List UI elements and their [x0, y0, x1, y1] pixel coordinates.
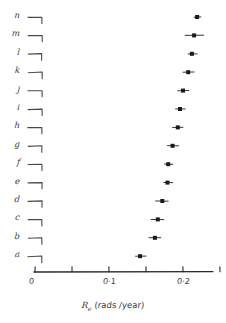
marker	[166, 162, 170, 166]
chart-background	[0, 0, 226, 323]
dot-plot-chart	[0, 0, 226, 323]
marker	[160, 199, 164, 203]
marker	[181, 89, 185, 93]
category-label-b: b	[2, 232, 21, 241]
marker	[186, 70, 190, 74]
category-label-d: d	[2, 195, 21, 204]
x-axis-title: Re (rads /year)	[0, 300, 226, 312]
category-label-e: e	[2, 177, 21, 186]
x-axis-title-units: (rads /year)	[94, 300, 145, 310]
category-label-k: k	[2, 66, 21, 75]
marker	[171, 144, 175, 148]
category-label-i: i	[2, 103, 21, 112]
category-label-m: m	[2, 29, 21, 38]
category-label-g: g	[2, 140, 21, 149]
marker	[138, 254, 142, 258]
category-label-f: f	[2, 158, 21, 167]
x-tick-label-2: 0·1	[103, 277, 117, 286]
category-label-n: n	[2, 11, 21, 20]
marker	[156, 217, 160, 221]
marker	[190, 52, 194, 56]
marker	[166, 181, 170, 185]
x-tick-label-4: 0·2	[177, 277, 191, 286]
marker	[178, 107, 182, 111]
category-label-a: a	[2, 250, 21, 259]
marker	[176, 125, 180, 129]
category-label-h: h	[2, 121, 21, 130]
marker	[195, 15, 199, 19]
marker	[153, 236, 157, 240]
category-label-j: j	[2, 85, 21, 94]
marker	[192, 33, 196, 37]
x-axis-title-subscript: e	[88, 305, 92, 312]
category-label-l: l	[2, 48, 21, 57]
category-label-c: c	[2, 213, 21, 222]
x-tick-label-0: 0	[29, 277, 35, 286]
